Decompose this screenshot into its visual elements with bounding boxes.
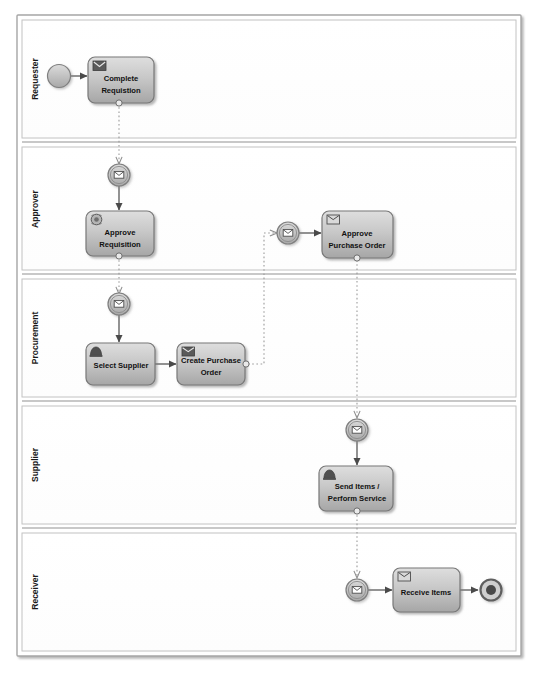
lane-supplier-rect xyxy=(22,406,516,524)
task-send-items-label-line1: Send Items / xyxy=(335,482,381,491)
task-select-supplier-label-line1: Select Supplier xyxy=(94,361,149,370)
lane-supplier[interactable]: Supplier xyxy=(22,406,516,524)
end-event-core xyxy=(486,585,496,595)
envelope-icon xyxy=(283,230,293,237)
task-send-items-label-line2: Perform Service xyxy=(328,494,386,503)
msg-catch-select-supplier[interactable] xyxy=(108,293,130,315)
start-event-circle xyxy=(48,65,71,88)
task-approve-requisition-label-line1: Approve xyxy=(105,228,136,237)
task-create-purchase-order[interactable]: Create Purchase Order xyxy=(177,343,249,385)
user-task-icon xyxy=(91,214,102,225)
envelope-icon xyxy=(352,587,362,594)
message-boundary-event-right[interactable] xyxy=(243,361,249,367)
message-boundary-event[interactable] xyxy=(116,100,122,106)
lane-approver-label: Approver xyxy=(30,189,40,227)
task-approve-requisition-label-line2: Requisition xyxy=(99,240,141,249)
message-boundary-event[interactable] xyxy=(116,253,122,259)
msg-catch-approve-requisition[interactable] xyxy=(108,164,130,186)
msg-catch-approve-purchase-order[interactable] xyxy=(277,222,299,244)
task-send-items-perform-service[interactable]: Send Items / Perform Service xyxy=(319,466,393,514)
task-select-supplier[interactable]: Select Supplier xyxy=(86,343,155,385)
lane-procurement-label: Procurement xyxy=(30,312,40,365)
msg-catch-send-items[interactable] xyxy=(346,419,368,441)
envelope-icon xyxy=(114,301,124,308)
message-boundary-event[interactable] xyxy=(354,508,360,514)
message-boundary-event[interactable] xyxy=(354,255,360,261)
task-complete-requisition-label-line1: Complete xyxy=(104,74,139,83)
envelope-icon xyxy=(93,61,106,71)
task-approve-purchase-order-label-line1: Approve xyxy=(342,229,373,238)
bpmn-canvas: Requester Approver Procurement Supplier … xyxy=(0,0,535,676)
task-approve-purchase-order-label-line2: Purchase Order xyxy=(329,241,386,250)
lane-requester-label: Requester xyxy=(30,58,40,100)
envelope-icon xyxy=(398,572,411,581)
lane-supplier-label: Supplier xyxy=(30,447,40,482)
task-receive-items-label-line1: Receive Items xyxy=(401,588,452,597)
task-complete-requisition-label-line2: Requistion xyxy=(101,86,141,95)
envelope-icon xyxy=(114,172,124,179)
lane-receiver-label: Receiver xyxy=(30,574,40,610)
task-create-purchase-order-label-line2: Order xyxy=(201,368,222,377)
task-approve-requisition[interactable]: Approve Requisition xyxy=(86,211,154,259)
envelope-icon xyxy=(182,347,195,356)
bpmn-diagram: Requester Approver Procurement Supplier … xyxy=(0,0,535,676)
task-approve-purchase-order[interactable]: Approve Purchase Order xyxy=(322,211,393,261)
msg-catch-receive-items[interactable] xyxy=(346,579,368,601)
start-event[interactable] xyxy=(48,65,71,88)
end-event[interactable] xyxy=(481,580,502,601)
task-complete-requisition[interactable]: Complete Requistion xyxy=(88,57,154,106)
envelope-icon xyxy=(352,427,362,434)
envelope-icon xyxy=(327,215,340,224)
task-receive-items[interactable]: Receive Items xyxy=(393,568,460,612)
task-create-purchase-order-label-line1: Create Purchase xyxy=(181,356,241,365)
